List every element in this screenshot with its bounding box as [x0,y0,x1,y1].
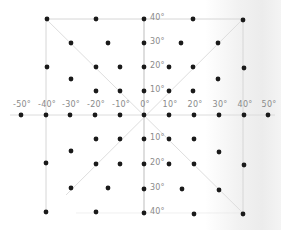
grid-dot [94,210,99,215]
grid-dot [142,41,147,46]
grid-dot [94,89,99,94]
y-axis-label-south: 30° [150,184,165,192]
x-axis-label: 40° [238,101,253,109]
grid-dot [142,89,147,94]
grid-dot [241,18,246,23]
grid-dot [94,137,99,142]
grid-dot [118,137,123,142]
grid-dot [118,113,123,118]
grid-dot [192,137,197,142]
grid-dot [216,77,221,82]
grid-dot [266,113,271,118]
x-axis-label: -10° [112,101,130,109]
grid-dot [44,161,49,166]
grid-dot [242,163,247,168]
x-axis-label: 10° [163,101,178,109]
grid-dot [167,89,172,94]
grid-dot [118,65,123,70]
y-axis-label-north: 20° [150,62,165,70]
y-axis-label-north: 10° [150,86,165,94]
grid-dot [180,187,185,192]
grid-lines-and-dots [0,0,281,230]
grid-dot [118,89,123,94]
grid-dot [167,113,172,118]
x-axis-label: 0° [140,101,150,109]
grid-dot [93,113,98,118]
grid-dot [191,65,196,70]
y-axis-label-south: 20° [150,159,165,167]
coordinate-diagram: -50°-40°-30°-20°-10°0°10°20°30°40°50°40°… [0,0,281,230]
grid-dot [45,65,50,70]
grid-dot [191,17,196,22]
grid-dot [142,113,147,118]
grid-dot [192,113,197,118]
grid-dot [241,212,246,217]
grid-dot [69,41,74,46]
grid-dot [142,17,147,22]
grid-dot [167,162,172,167]
y-axis-label-north: 40° [150,14,165,22]
grid-dot [217,150,222,155]
grid-dot [44,113,49,118]
grid-dot [217,113,222,118]
x-axis-label: 30° [213,101,228,109]
grid-dot [179,41,184,46]
grid-dot [69,186,74,191]
grid-dot [192,162,197,167]
grid-dot [217,188,222,193]
grid-dot [118,162,123,167]
grid-dot [106,186,111,191]
grid-dot [106,41,111,46]
grid-dot [142,137,147,142]
grid-dot [192,212,197,217]
grid-dot [167,137,172,142]
grid-dot [69,149,74,154]
grid-dot [94,65,99,70]
grid-dot [19,113,24,118]
grid-dot [69,77,74,82]
grid-dot [142,65,147,70]
x-axis-label: -30° [62,101,80,109]
x-axis-label: -40° [38,101,56,109]
y-axis-label-north: 30° [150,38,165,46]
grid-dot [44,210,49,215]
grid-dot [191,89,196,94]
grid-dot [94,162,99,167]
grid-dot [216,41,221,46]
x-axis-label: 50° [262,101,277,109]
grid-dot [242,66,247,71]
grid-dot [68,113,73,118]
x-axis-label: -20° [87,101,105,109]
grid-dot [45,17,50,22]
x-axis-label: 20° [188,101,203,109]
grid-dot [142,162,147,167]
grid-dot [242,113,247,118]
y-axis-label-south: 40° [150,208,165,216]
grid-dot [167,65,172,70]
x-axis-label: -50° [13,101,31,109]
grid-dot [142,187,147,192]
y-axis-label-south: 10° [150,134,165,142]
grid-dot [94,17,99,22]
grid-dot [142,211,147,216]
